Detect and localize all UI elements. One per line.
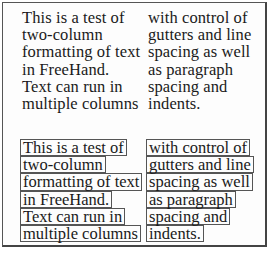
boxed-text-line: spacing as well [146,173,253,190]
text-line: This is a test of [22,9,140,26]
boxed-text-line: Text can run in [20,208,125,225]
text-line: spacing and [148,78,251,95]
boxed-text-line: indents. [146,225,204,242]
boxed-text-column-2: with control of gutters and line spacing… [146,139,254,242]
text-line: spacing as well [148,43,251,60]
text-line: two-column [22,26,140,43]
boxed-text-line: as paragraph [146,191,236,208]
text-line: indents. [148,95,251,112]
text-line: Text can run in [22,78,140,95]
text-line: multiple columns [22,95,140,112]
plain-text-column-2: with control of gutters and line spacing… [148,9,251,112]
boxed-text-column-1: This is a test of two-column formatting … [20,139,142,242]
text-line: with control of [148,9,251,26]
boxed-text-line: gutters and line [146,156,254,173]
boxed-text-line: formatting of text [20,173,142,190]
plain-text-column-1: This is a test of two-column formatting … [22,9,140,112]
boxed-text-line: two-column [20,156,106,173]
text-line: formatting of text [22,43,140,60]
text-line: as paragraph [148,61,251,78]
boxed-text-line: with control of [146,139,250,156]
text-line: in FreeHand. [22,61,140,78]
boxed-text-line: multiple columns [20,225,141,242]
boxed-text-line: in FreeHand. [20,191,112,208]
boxed-text-line: spacing and [146,208,230,225]
text-line: gutters and line [148,26,251,43]
boxed-text-line: This is a test of [20,139,127,156]
